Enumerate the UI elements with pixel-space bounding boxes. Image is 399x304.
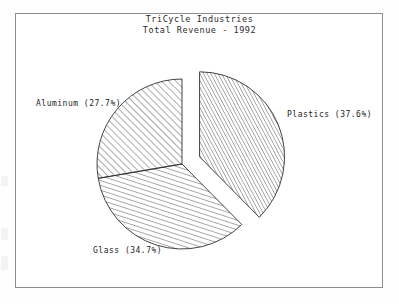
scan-artifact [1, 256, 8, 270]
page-canvas: TriCycle Industries Total Revenue - 1992… [0, 0, 399, 304]
pie-chart [15, 13, 383, 288]
slice-label-glass: Glass (34.7%) [93, 246, 162, 256]
pie-slice-aluminum [97, 79, 182, 178]
slice-label-aluminum: Aluminum (27.7%) [36, 99, 121, 109]
slice-label-plastics: Plastics (37.6%) [287, 110, 372, 120]
pie-slice-group [97, 72, 285, 249]
scan-artifact [1, 228, 8, 240]
scan-artifact [1, 176, 8, 186]
